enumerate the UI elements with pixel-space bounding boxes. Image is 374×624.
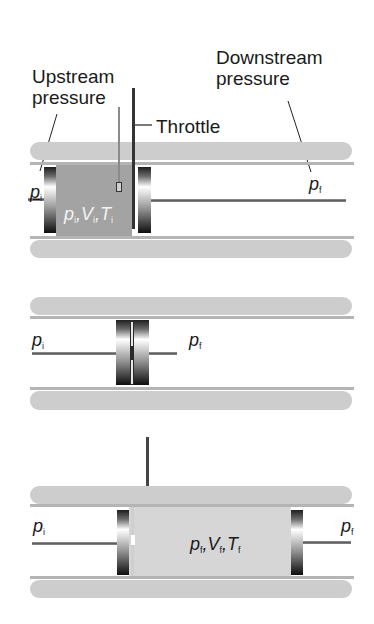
right-piston-rod [149, 352, 177, 355]
throttle-gap [131, 535, 135, 545]
cylinder-lower-wall [30, 580, 352, 598]
thermometer-icon [118, 107, 120, 183]
cylinder-upper-wall [30, 142, 352, 160]
right-piston [134, 320, 149, 385]
right-piston-rod [151, 199, 346, 202]
right-piston [291, 510, 303, 575]
upstream-pressure-symbol: pi [33, 517, 45, 541]
downstream-pressure-symbol: pf [309, 175, 322, 199]
thermometer-bulb-icon [116, 182, 122, 192]
throttle-plug [132, 88, 135, 229]
initial-state-label: pi,Vi,Ti [64, 205, 113, 229]
left-piston [116, 320, 130, 385]
throttle-gap-lower [131, 360, 133, 384]
upstream-pressure-symbol: pi [30, 183, 42, 207]
downstream-pressure-symbol: pf [189, 331, 202, 355]
cylinder-upper-wall [30, 486, 352, 504]
left-piston-rod [32, 352, 116, 355]
right-piston-rod [303, 541, 351, 544]
upstream-pressure-symbol: pi [32, 331, 44, 355]
cylinder-lower-rail [30, 387, 354, 390]
cylinder-lower-wall [30, 240, 352, 258]
cylinder-lower-rail [30, 236, 354, 239]
cylinder-lower-wall [30, 391, 352, 410]
cylinder-upper-wall [30, 297, 352, 315]
left-piston [117, 510, 129, 575]
left-piston [44, 167, 56, 233]
final-state-label: pf,Vf,Tf [190, 535, 241, 559]
cylinder-upper-rail [30, 316, 354, 319]
cylinder-lower-rail [30, 576, 354, 579]
throttle-gap-upper [131, 322, 133, 346]
downstream-pressure-symbol: pf [341, 517, 354, 541]
left-piston-rod [32, 542, 117, 545]
right-piston [138, 167, 151, 233]
